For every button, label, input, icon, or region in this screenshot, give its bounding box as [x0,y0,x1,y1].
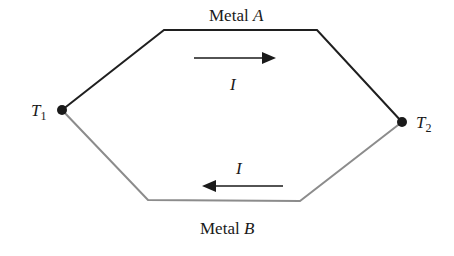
current-label-top: I [230,76,236,93]
current-label-bottom: I [236,160,242,177]
arrowhead-left-icon [202,180,216,192]
junction-t2-dot [397,117,407,127]
current-arrow-bottom [202,180,283,192]
current-arrow-top [194,52,276,64]
junction-t1-label: T1 [31,102,46,122]
arrowhead-right-icon [262,52,276,64]
junction-t2-label: T2 [416,114,431,134]
t1-subscript: 1 [40,109,46,123]
current-top-symbol: I [230,75,236,94]
metal-b-label: Metal B [200,220,254,237]
metal-b-label-var: B [244,219,254,238]
current-bottom-symbol: I [236,159,242,178]
metal-b-wire [62,110,402,201]
metal-b-label-prefix: Metal [200,219,240,238]
thermocouple-diagram [0,0,454,256]
junction-t1-dot [57,105,67,115]
metal-a-label-prefix: Metal [209,6,249,25]
metal-a-label: Metal A [209,7,263,24]
t2-subscript: 2 [425,121,431,135]
metal-a-label-var: A [253,6,263,25]
